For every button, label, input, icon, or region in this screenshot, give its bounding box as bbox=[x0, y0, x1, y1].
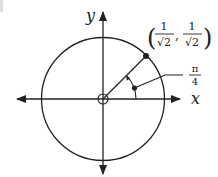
coord-comma: , bbox=[175, 28, 179, 42]
coord-x-numerator: 1 bbox=[161, 20, 168, 33]
y-axis-label: y bbox=[85, 6, 96, 25]
coord-y-numerator: 1 bbox=[189, 20, 196, 33]
coord-close-paren: ) bbox=[203, 24, 212, 52]
unit-circle-diagram: y x π 4 ( 1 √2 , 1 √2 ) bbox=[0, 0, 218, 177]
point-on-circle bbox=[143, 53, 149, 59]
point-coordinate-label: ( 1 √2 , 1 √2 ) bbox=[147, 20, 212, 52]
angle-label-numerator: π bbox=[192, 63, 199, 74]
coord-x-denominator: √2 bbox=[157, 36, 171, 49]
radius-line bbox=[103, 56, 146, 99]
x-axis-label: x bbox=[191, 89, 200, 108]
coord-open-paren: ( bbox=[147, 24, 156, 52]
coord-y-denominator: √2 bbox=[185, 36, 199, 49]
angle-leader-line bbox=[135, 75, 184, 88]
angle-label-denominator: 4 bbox=[192, 76, 198, 87]
